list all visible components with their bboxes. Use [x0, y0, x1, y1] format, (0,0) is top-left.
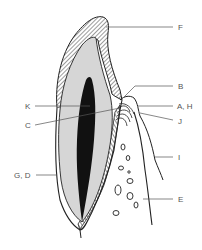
- label-E: E: [178, 195, 183, 204]
- label-J: J: [178, 117, 182, 126]
- label-B: B: [178, 82, 183, 91]
- label-I: I: [178, 153, 180, 162]
- label-F: F: [178, 23, 183, 32]
- bone-fragments: [113, 144, 138, 216]
- label-GD: G, D: [14, 171, 30, 180]
- label-K: K: [25, 102, 30, 111]
- gingiva: [120, 96, 163, 180]
- leader-J: [140, 113, 173, 120]
- root-apex: [80, 230, 81, 238]
- label-AH: A, H: [177, 102, 193, 111]
- label-C: C: [25, 121, 31, 130]
